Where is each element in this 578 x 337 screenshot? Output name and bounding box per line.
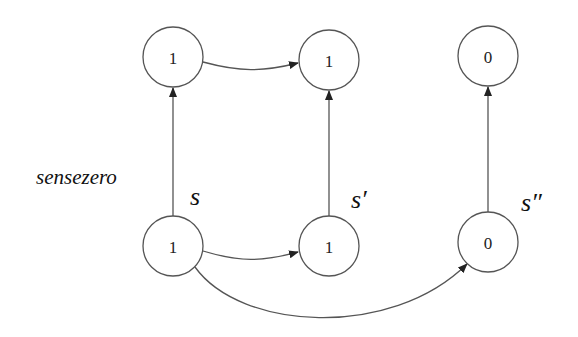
node-value: 1 — [325, 238, 334, 257]
node-value: 1 — [169, 238, 178, 257]
node-bottom-middle: 1 — [299, 216, 359, 276]
state-label-s: s — [190, 182, 200, 211]
state-label-s-prime: s′ — [351, 185, 367, 214]
node-value: 0 — [484, 48, 493, 67]
state-label-s-double-prime: s″ — [521, 188, 543, 217]
node-value: 1 — [169, 49, 178, 68]
node-bottom-left: 1 — [143, 216, 203, 276]
edge-top-left-to-top-middle — [203, 62, 298, 70]
state-transition-diagram: 1 1 0 1 1 0 sensezero s s′ s″ — [0, 0, 578, 337]
node-top-right: 0 — [458, 26, 518, 86]
edges — [173, 62, 488, 318]
node-value: 1 — [325, 52, 334, 71]
node-top-left: 1 — [143, 27, 203, 87]
node-bottom-right: 0 — [458, 212, 518, 272]
sensezero-label: sensezero — [36, 165, 117, 189]
node-top-middle: 1 — [299, 30, 359, 90]
node-value: 0 — [484, 234, 493, 253]
edge-bottom-left-to-bottom-middle — [203, 251, 298, 259]
